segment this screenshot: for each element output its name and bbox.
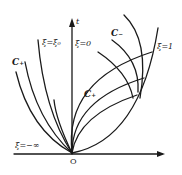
curve-left-2	[25, 62, 72, 153]
curve-c-plus-3	[72, 95, 137, 153]
label-origin: O	[70, 158, 77, 166]
label-t-axis: t	[76, 18, 79, 26]
label-xi-xi0: ξ=ξ₀	[42, 39, 61, 47]
y-axis-arrow-icon	[69, 18, 75, 27]
label-xi-1: ξ=1	[157, 43, 173, 51]
curve-xi-xi0	[38, 40, 72, 153]
curve-c-minus-3	[98, 52, 133, 98]
x-axis-arrow-icon	[157, 151, 165, 157]
label-c-plus-left: C₊	[12, 58, 24, 67]
diagram-canvas: t ξ=ξ₀ ξ=0 ξ=1 ξ=−∞ O C₊ C₊ C₋	[0, 0, 182, 175]
curve-c-plus-2	[72, 78, 144, 153]
label-c-plus-inner: C₊	[84, 90, 96, 99]
curve-c-plus-1	[71, 52, 152, 153]
label-c-minus: C₋	[111, 29, 123, 38]
label-xi-0: ξ=0	[75, 40, 91, 48]
curve-left-4	[54, 100, 72, 153]
label-xi-neg-inf: ξ=−∞	[15, 142, 39, 150]
